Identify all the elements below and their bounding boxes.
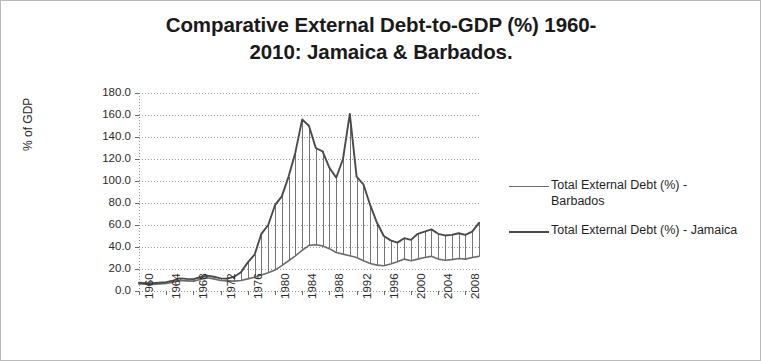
x-tick-label: 1964 (171, 273, 182, 299)
x-tick-label: 2000 (416, 273, 427, 299)
y-tick-label: 160.0 (79, 109, 131, 120)
x-tick-label: 1980 (280, 273, 291, 299)
y-tick-label: 100.0 (79, 175, 131, 186)
y-tick-label: 120.0 (79, 153, 131, 164)
legend-label-jamaica: Total External Debt (%) - Jamaica (549, 222, 737, 238)
x-tick-label: 1992 (362, 273, 373, 299)
high-low-drop-lines (140, 114, 480, 285)
x-tick-label: 1968 (198, 273, 209, 299)
gridlines (139, 94, 479, 292)
y-tick-label: 40.0 (79, 241, 131, 252)
y-tick-label: 20.0 (79, 263, 131, 274)
y-tick-label: 60.0 (79, 219, 131, 230)
axis-lines (139, 93, 479, 292)
x-tick-label: 1972 (226, 273, 237, 299)
y-tick-label: 180.0 (79, 87, 131, 98)
x-tick-label: 1960 (144, 273, 155, 299)
series-line-jamaica (139, 114, 479, 283)
x-tick-label: 2004 (443, 273, 454, 299)
y-tick-label: 0.0 (79, 285, 131, 296)
legend-label-barbados-line-1: Total External Debt (%) - (551, 178, 687, 192)
y-tick-label: 140.0 (79, 131, 131, 142)
legend-label-barbados-line-2: Barbados (551, 194, 605, 208)
chart-figure: Comparative External Debt-to-GDP (%) 196… (0, 0, 761, 361)
legend-label-jamaica-line-2: Jamaica (691, 223, 738, 237)
chart-legend: Total External Debt (%) - Barbados Total… (509, 177, 749, 251)
legend-line-swatch-barbados (509, 181, 549, 193)
legend-item-jamaica[interactable]: Total External Debt (%) - Jamaica (509, 222, 749, 238)
legend-label-jamaica-line-1: Total External Debt (%) - (551, 223, 687, 237)
x-tick-label: 1996 (389, 273, 400, 299)
x-tick-label: 1984 (307, 273, 318, 299)
y-tick-label: 80.0 (79, 197, 131, 208)
legend-line-swatch-jamaica (509, 226, 549, 238)
x-tick-label: 1988 (334, 273, 345, 299)
legend-item-barbados[interactable]: Total External Debt (%) - Barbados (509, 177, 749, 209)
y-tick-marks (135, 94, 139, 292)
x-tick-label: 2008 (470, 273, 481, 299)
x-tick-label: 1976 (253, 273, 264, 299)
legend-label-barbados: Total External Debt (%) - Barbados (549, 177, 741, 209)
